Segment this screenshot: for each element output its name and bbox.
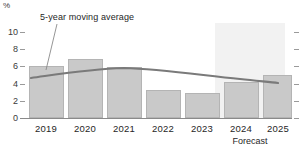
y-axis-tick-8 xyxy=(20,49,25,50)
annotation-leader-line xyxy=(46,24,57,70)
bar-2022 xyxy=(146,90,181,118)
bar-2025 xyxy=(263,75,292,118)
y-axis-label-2: 2 xyxy=(0,97,18,106)
moving-average-annotation-label: 5-year moving average xyxy=(40,12,134,22)
y-axis-unit-label: % xyxy=(3,2,10,10)
y-axis-label-6: 6 xyxy=(0,62,18,71)
y-axis-right-tick-2 xyxy=(294,101,299,102)
y-axis-label-0: 0 xyxy=(0,114,18,123)
x-axis-line xyxy=(20,118,292,119)
y-axis-tick-2 xyxy=(20,101,25,102)
y-axis-tick-6 xyxy=(20,66,25,67)
bar-2023 xyxy=(185,93,220,118)
y-axis-label-8: 8 xyxy=(0,45,18,54)
y-axis-tick-4 xyxy=(20,84,25,85)
x-axis-label-2025: 2025 xyxy=(255,123,301,134)
bar-2021 xyxy=(107,67,142,118)
y-axis-label-10: 10 xyxy=(0,28,18,37)
y-axis-right-tick-8 xyxy=(294,49,299,50)
y-axis-right-tick-6 xyxy=(294,66,299,67)
y-axis-right-tick-10 xyxy=(294,32,299,33)
bar-2019 xyxy=(29,66,64,118)
y-axis-tick-10 xyxy=(20,32,25,33)
bar-2024 xyxy=(224,82,259,118)
bar-2020 xyxy=(68,59,103,118)
y-axis-label-4: 4 xyxy=(0,80,18,89)
forecast-caption-label: Forecast xyxy=(215,136,285,146)
y-axis-right-tick-4 xyxy=(294,84,299,85)
chart-container: % 10 8 6 4 2 0 5-year moving average 201… xyxy=(0,0,303,154)
y-axis-right-tick-0 xyxy=(294,118,299,119)
